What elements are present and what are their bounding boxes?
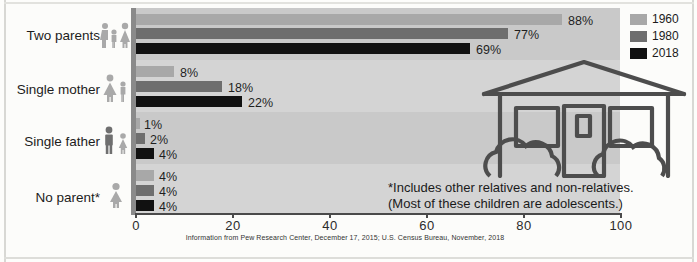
- row-label-two-parents: Two parents: [12, 28, 100, 43]
- page-frame-right: [692, 0, 694, 262]
- bar-two-parents-2018: [135, 43, 470, 54]
- bar-label-single-father-2018: 4%: [159, 148, 177, 162]
- footnote-line-2: (Most of these children are adolescents.…: [388, 196, 648, 212]
- bar-single-mother-1980: [135, 81, 222, 92]
- legend-label-1980: 1980: [652, 29, 679, 43]
- bar-label-no-parent-2018: 4%: [159, 200, 177, 214]
- bar-no-parent-1960: [135, 170, 154, 181]
- page-frame-left: [4, 0, 6, 262]
- bar-no-parent-1980: [135, 185, 154, 196]
- row-label-single-father: Single father: [4, 134, 100, 149]
- legend: 1960 1980 2018: [630, 12, 692, 63]
- x-tick-label-0: 0: [116, 218, 156, 233]
- bar-no-parent-2018: [135, 200, 154, 211]
- chart-page: 88% 77% 69% 8% 18% 22% 1% 2% 4% 4% 4% 4%…: [0, 0, 697, 262]
- legend-swatch-2018: [630, 48, 647, 59]
- legend-swatch-1980: [630, 31, 647, 42]
- x-tick-label-100: 100: [601, 218, 641, 233]
- row-label-single-mother: Single mother: [2, 82, 100, 97]
- woman-child-icon: [100, 74, 132, 102]
- bar-single-mother-2018: [135, 96, 242, 107]
- bar-label-two-parents-1980: 77%: [514, 28, 539, 42]
- legend-item-2018: 2018: [630, 46, 692, 60]
- page-frame-bottom: [4, 257, 694, 259]
- bar-label-two-parents-2018: 69%: [476, 43, 501, 57]
- bar-label-no-parent-1980: 4%: [159, 185, 177, 199]
- man-child-woman-icon: [100, 22, 132, 48]
- bar-label-single-mother-1960: 8%: [180, 66, 198, 80]
- legend-item-1960: 1960: [630, 12, 692, 26]
- x-axis-line: [135, 213, 621, 215]
- bar-two-parents-1960: [135, 14, 562, 25]
- legend-item-1980: 1980: [630, 29, 692, 43]
- footnote-line-1: *Includes other relatives and non-relati…: [388, 180, 648, 196]
- x-tick-label-80: 80: [504, 218, 544, 233]
- x-tick-label-20: 20: [213, 218, 253, 233]
- row-label-no-parent: No parent*: [10, 190, 100, 205]
- legend-label-1960: 1960: [652, 12, 679, 26]
- child-icon: [104, 182, 128, 208]
- legend-swatch-1960: [630, 14, 647, 25]
- bar-label-single-father-1960: 1%: [144, 118, 162, 132]
- bar-label-single-father-1980: 2%: [150, 133, 168, 147]
- bar-two-parents-1980: [135, 28, 508, 39]
- legend-label-2018: 2018: [652, 46, 679, 60]
- man-child-icon: [100, 126, 132, 154]
- bar-single-father-1980: [135, 133, 145, 144]
- bar-single-father-2018: [135, 148, 154, 159]
- bar-label-single-mother-2018: 22%: [248, 96, 273, 110]
- x-tick-label-40: 40: [310, 218, 350, 233]
- bar-label-single-mother-1980: 18%: [228, 81, 253, 95]
- x-tick-label-60: 60: [407, 218, 447, 233]
- bar-single-mother-1960: [135, 66, 174, 77]
- bar-label-two-parents-1960: 88%: [568, 14, 593, 28]
- source-citation: Information from Pew Research Center, De…: [0, 234, 690, 241]
- page-frame-top: [4, 2, 694, 4]
- house-illustration-icon: [478, 58, 690, 178]
- footnote: *Includes other relatives and non-relati…: [388, 180, 648, 213]
- bar-label-no-parent-1960: 4%: [159, 170, 177, 184]
